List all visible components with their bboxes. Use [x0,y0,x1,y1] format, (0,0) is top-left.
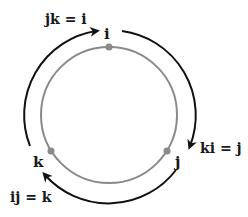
quaternion-cycle-diagram: i j k jk = i ki = j ij = k [0,0,248,217]
node-dot-i [106,44,113,51]
node-dot-j [164,148,171,155]
inner-circle [41,47,177,183]
node-label-j: j [173,153,180,171]
relation-label-jk: jk = i [43,11,87,27]
arrow-i-to-j [122,31,196,146]
arrow-k-to-i [24,31,96,146]
relation-label-ki: ki = j [200,140,242,156]
node-label-k: k [33,153,44,171]
relation-label-ij: ij = k [10,189,52,205]
node-label-i: i [104,25,110,43]
node-dot-k [48,148,55,155]
arrow-j-to-k [45,170,176,203]
